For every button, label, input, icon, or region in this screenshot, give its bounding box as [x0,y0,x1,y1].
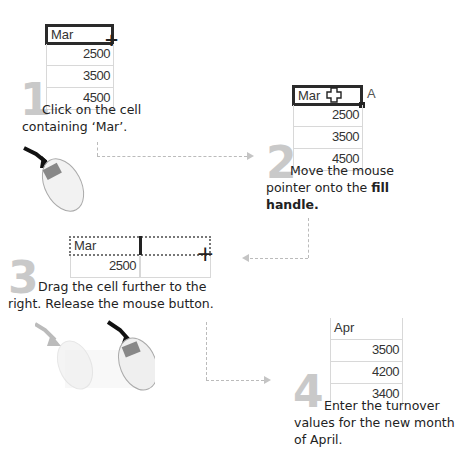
next-column-partial: A [367,86,376,101]
mouse-click-icon [18,140,98,215]
arrow-line [206,380,264,381]
arrow-line [97,142,98,156]
arrow-line [308,218,309,258]
cell-empty [140,256,211,278]
arrow-right-icon [247,152,254,160]
cell-value: 3500 [293,127,363,149]
arrow-left-icon [242,254,249,262]
arrow-right-icon [264,376,271,384]
cell-value: 3500 [46,66,114,88]
cell-value: 2500 [293,105,363,127]
drag-split-line [139,236,142,255]
fill-cursor-icon [326,87,342,103]
step-caption: Enter the turnover values for the new mo… [294,397,459,448]
arrow-line [250,258,308,259]
arrow-line [206,322,207,380]
arrow-line [97,156,247,157]
step-caption: Click on the cell containing ‘Mar’. [22,101,172,135]
step-caption: Move the mouse pointer onto the fill han… [266,162,416,213]
cell-apr[interactable]: Apr [330,318,403,340]
mouse-drag-icon [35,320,155,395]
cell-value: 2500 [46,44,114,66]
step-caption: Drag the cell further to the right. Rele… [8,278,238,312]
cell-value: 2500 [70,256,140,278]
cell-value[interactable]: 4200 [330,362,403,384]
cell-value[interactable]: 3500 [330,340,403,362]
